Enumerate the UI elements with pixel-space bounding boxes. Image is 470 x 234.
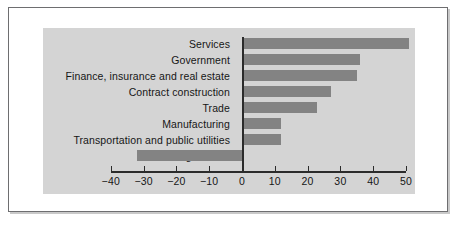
bar — [242, 134, 281, 145]
bar — [242, 38, 409, 49]
x-tick-label: −40 — [102, 175, 120, 187]
bar — [242, 86, 331, 97]
plot-area: Services Government Finance, insurance a… — [43, 28, 415, 194]
x-tick-label: 40 — [367, 175, 379, 187]
x-tick-mark — [373, 166, 374, 171]
bar — [242, 118, 281, 129]
x-tick-mark — [275, 166, 276, 171]
x-tick-label: 30 — [334, 175, 346, 187]
zero-axis-line — [242, 37, 244, 172]
bar — [242, 54, 360, 65]
x-tick-label: −10 — [200, 175, 218, 187]
x-tick-label: 20 — [302, 175, 314, 187]
bar — [242, 102, 317, 113]
x-tick-mark — [209, 166, 210, 171]
x-tick-mark — [176, 166, 177, 171]
x-tick-mark — [242, 166, 243, 171]
x-tick-label: −30 — [134, 175, 152, 187]
bar — [137, 150, 242, 161]
bars-layer — [43, 36, 415, 165]
x-tick-mark — [144, 166, 145, 171]
x-tick-label: 50 — [400, 175, 412, 187]
bar — [242, 70, 357, 81]
x-tick-mark — [406, 166, 407, 171]
x-tick-mark — [308, 166, 309, 171]
x-tick-label: −20 — [167, 175, 185, 187]
x-tick-label: 0 — [239, 175, 245, 187]
x-axis-line — [111, 171, 406, 173]
x-tick-label: 10 — [269, 175, 281, 187]
x-tick-mark — [111, 166, 112, 171]
figure-frame: Services Government Finance, insurance a… — [8, 7, 448, 212]
x-tick-mark — [340, 166, 341, 171]
